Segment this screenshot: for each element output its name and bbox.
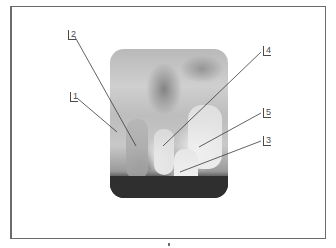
center-tick-mark bbox=[168, 243, 170, 246]
radiograph-dark-band bbox=[110, 176, 228, 198]
callout-label-5: 5 bbox=[263, 108, 271, 118]
callout-label-1: 1 bbox=[70, 92, 78, 102]
callout-label-3: 3 bbox=[263, 136, 271, 146]
tooth-shadow bbox=[126, 119, 148, 179]
callout-label-2: 2 bbox=[68, 30, 76, 40]
dental-radiograph bbox=[110, 49, 228, 198]
tooth-shadow bbox=[154, 129, 174, 175]
callout-label-4: 4 bbox=[263, 46, 271, 56]
